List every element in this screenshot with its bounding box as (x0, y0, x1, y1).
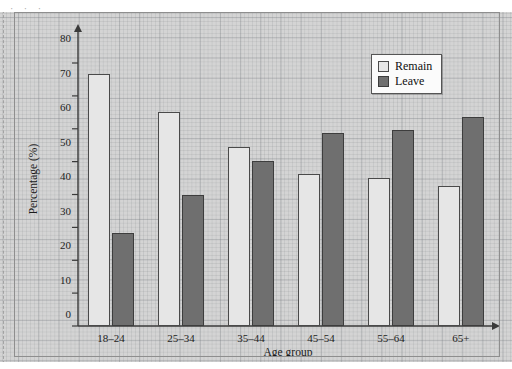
chart-figure-frame: 0102030405060708018–2425–3435–4445–5455–… (14, 12, 500, 357)
bar-remain-1 (158, 112, 180, 326)
x-axis-tick-label: 65+ (452, 332, 469, 344)
bar-leave-0 (112, 233, 134, 326)
scanned-page: · · · (0, 0, 512, 369)
legend-swatch-leave (378, 76, 389, 87)
x-axis-tick-label: 25–34 (167, 332, 195, 344)
x-axis-tick-label: 55–64 (377, 332, 405, 344)
y-axis-tick-label: 70 (60, 67, 71, 79)
y-axis-tick-label: 30 (60, 205, 71, 217)
legend-swatch-remain (378, 61, 389, 72)
bar-remain-5 (438, 186, 460, 326)
y-axis-tick-label: 10 (60, 274, 71, 286)
bar-leave-4 (392, 130, 414, 326)
y-axis-tick-label: 60 (60, 101, 71, 113)
chart-legend: Remain Leave (371, 54, 442, 94)
page-edge-divider (3, 0, 5, 369)
bar-remain-0 (88, 74, 110, 326)
bar-group (438, 33, 484, 326)
bar-remain-2 (228, 147, 250, 326)
bar-group (228, 33, 274, 326)
x-axis-tick-label: 45–54 (307, 332, 335, 344)
bar-group (298, 33, 344, 326)
bar-leave-3 (322, 133, 344, 326)
legend-label-remain: Remain (395, 60, 432, 73)
legend-item-leave: Leave (378, 74, 432, 89)
bar-remain-4 (368, 178, 390, 326)
y-axis-title: Percentage (%) (27, 144, 39, 215)
legend-label-leave: Leave (395, 75, 424, 88)
scan-bottom-edge (0, 362, 512, 369)
y-axis-tick-label: 20 (60, 239, 71, 251)
legend-item-remain: Remain (378, 59, 432, 74)
y-axis-tick-label: 50 (60, 136, 71, 148)
x-axis-tick-label: 18–24 (97, 332, 125, 344)
x-axis-tick-label: 35–44 (237, 332, 265, 344)
bar-leave-5 (462, 117, 484, 326)
y-axis-tick-label: 80 (60, 32, 71, 44)
scan-top-sliver: · · · (0, 0, 512, 12)
bar-remain-3 (298, 174, 320, 326)
bar-leave-1 (182, 195, 204, 326)
bar-group (88, 33, 134, 326)
x-axis-title: Age group (78, 346, 498, 357)
y-axis-tick-label: 0 (66, 308, 72, 320)
bar-leave-2 (252, 161, 274, 326)
y-axis-tick-label: 40 (60, 170, 71, 182)
bar-group (158, 33, 204, 326)
